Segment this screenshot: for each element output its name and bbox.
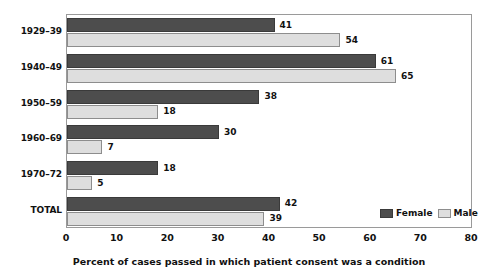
- bar-male-2: [67, 105, 158, 119]
- x-tick-30: 30: [211, 232, 224, 243]
- bar-female-0: [67, 18, 275, 32]
- x-tick-70: 70: [414, 232, 427, 243]
- bar-female-5: [67, 197, 280, 211]
- x-tick-80: 80: [464, 232, 477, 243]
- bar-value-female-4: 18: [163, 164, 176, 173]
- bar-female-4: [67, 161, 158, 175]
- bar-chart-figure: 4154616538183071854239 1929–391940–49195…: [0, 0, 498, 276]
- legend-label-male: Male: [454, 208, 478, 218]
- bar-value-female-3: 30: [224, 128, 237, 137]
- bar-value-female-0: 41: [280, 21, 293, 30]
- bar-value-male-5: 39: [269, 214, 282, 223]
- category-label-4: 1970–72: [4, 169, 62, 179]
- category-label-0: 1929–39: [4, 26, 62, 36]
- chart-legend: FemaleMale: [380, 206, 478, 220]
- bar-value-female-2: 38: [264, 92, 277, 101]
- bar-female-1: [67, 54, 376, 68]
- bar-female-2: [67, 90, 259, 104]
- bar-male-0: [67, 33, 340, 47]
- bar-value-male-4: 5: [97, 179, 103, 188]
- x-tick-10: 10: [110, 232, 123, 243]
- x-tick-20: 20: [161, 232, 174, 243]
- bar-male-1: [67, 69, 396, 83]
- bar-value-female-1: 61: [381, 57, 394, 66]
- x-tick-0: 0: [63, 232, 70, 243]
- x-axis-tick-labels: 01020304050607080: [66, 229, 472, 249]
- bar-value-male-3: 7: [107, 143, 113, 152]
- bar-value-male-0: 54: [345, 36, 358, 45]
- category-label-5: TOTAL: [4, 205, 62, 215]
- bar-male-4: [67, 176, 92, 190]
- legend-swatch-male-icon: [438, 209, 451, 218]
- legend-entry-female: Female: [380, 208, 433, 218]
- x-tick-60: 60: [363, 232, 376, 243]
- bar-value-male-1: 65: [401, 72, 414, 81]
- category-label-3: 1960–69: [4, 133, 62, 143]
- x-tick-50: 50: [313, 232, 326, 243]
- bar-male-5: [67, 212, 264, 226]
- bar-female-3: [67, 125, 219, 139]
- bar-male-3: [67, 140, 102, 154]
- legend-entry-male: Male: [438, 208, 478, 218]
- category-label-1: 1940–49: [4, 62, 62, 72]
- category-axis-labels: 1929–391940–491950–591960–691970–72TOTAL: [0, 14, 62, 228]
- bar-value-female-5: 42: [285, 199, 298, 208]
- x-tick-40: 40: [262, 232, 275, 243]
- legend-swatch-female-icon: [380, 209, 393, 218]
- chart-caption: Percent of cases passed in which patient…: [0, 256, 498, 267]
- plot-area: 4154616538183071854239: [66, 14, 472, 228]
- bar-value-male-2: 18: [163, 107, 176, 116]
- category-label-2: 1950–59: [4, 98, 62, 108]
- legend-label-female: Female: [396, 208, 433, 218]
